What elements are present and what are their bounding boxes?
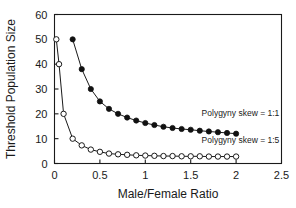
y-axis-tick-label: 20 xyxy=(35,108,47,120)
data-point-series-1 xyxy=(143,120,148,125)
x-axis-tick-label: 2 xyxy=(233,169,239,181)
data-point-series-1 xyxy=(115,111,120,116)
data-point-series-2 xyxy=(161,153,166,158)
data-point-series-1 xyxy=(170,125,175,130)
data-point-series-1 xyxy=(134,118,139,123)
data-point-series-2 xyxy=(233,154,238,159)
data-point-series-1 xyxy=(125,115,130,120)
data-point-series-2 xyxy=(170,153,175,158)
data-point-series-2 xyxy=(61,111,66,116)
data-point-series-1 xyxy=(106,106,111,111)
y-axis-tick-label: 30 xyxy=(35,83,47,95)
data-point-series-2 xyxy=(79,143,84,148)
series-annotation-1: Polygyny skew = 1:1 xyxy=(202,108,280,118)
data-point-series-1 xyxy=(179,126,184,131)
data-point-series-1 xyxy=(188,127,193,132)
data-point-series-2 xyxy=(152,153,157,158)
x-axis-tick-label: 1.5 xyxy=(183,169,198,181)
data-point-series-2 xyxy=(224,154,229,159)
data-point-series-2 xyxy=(106,151,111,156)
x-axis-tick-label: 2.5 xyxy=(274,169,289,181)
y-axis-tick-label: 10 xyxy=(35,133,47,145)
series-annotation-2: Polygyny skew = 1:5 xyxy=(202,135,280,145)
data-point-series-1 xyxy=(88,86,93,91)
data-point-series-2 xyxy=(115,152,120,157)
data-point-series-1 xyxy=(197,128,202,133)
x-axis-tick-label: 1 xyxy=(142,169,148,181)
data-point-series-1 xyxy=(152,122,157,127)
data-point-series-1 xyxy=(161,124,166,129)
data-point-series-2 xyxy=(124,152,129,157)
data-point-series-2 xyxy=(54,37,59,42)
data-point-series-2 xyxy=(143,153,148,158)
data-point-series-1 xyxy=(79,67,84,72)
data-point-series-2 xyxy=(97,149,102,154)
y-axis-tick-label: 50 xyxy=(35,33,47,45)
data-point-series-2 xyxy=(88,147,93,152)
line-chart: 010203040506000.511.522.5Male/Female Rat… xyxy=(0,0,296,208)
data-point-series-1 xyxy=(97,99,102,104)
data-point-series-2 xyxy=(215,154,220,159)
data-point-series-2 xyxy=(188,154,193,159)
x-axis-tick-label: 0 xyxy=(51,169,57,181)
data-point-series-1 xyxy=(215,130,220,135)
data-point-series-2 xyxy=(56,61,61,66)
data-point-series-2 xyxy=(179,154,184,159)
data-point-series-2 xyxy=(206,154,211,159)
y-axis-tick-label: 60 xyxy=(35,9,47,21)
y-axis-title: Threshold Population Size xyxy=(4,19,18,159)
data-point-series-2 xyxy=(197,154,202,159)
data-point-series-1 xyxy=(70,37,75,42)
y-axis-tick-label: 0 xyxy=(41,158,47,170)
y-axis-tick-label: 40 xyxy=(35,58,47,70)
data-point-series-1 xyxy=(206,129,211,134)
x-axis-tick-label: 0.5 xyxy=(92,169,107,181)
data-point-series-2 xyxy=(134,153,139,158)
chart-figure: 010203040506000.511.522.5Male/Female Rat… xyxy=(0,0,296,208)
data-point-series-2 xyxy=(70,136,75,141)
x-axis-title: Male/Female Ratio xyxy=(118,187,219,201)
series-line-1 xyxy=(73,39,236,133)
